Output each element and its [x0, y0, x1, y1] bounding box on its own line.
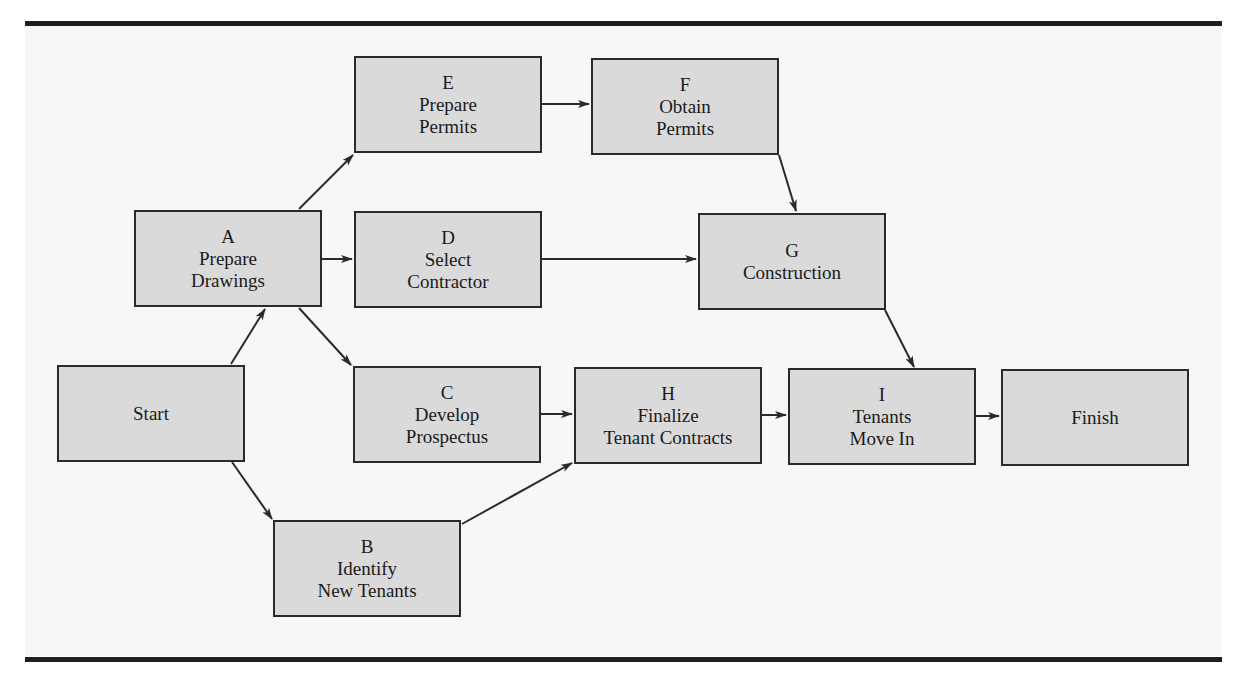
node-i-tenants-move-in: I Tenants Move In: [788, 368, 976, 465]
node-letter: I: [879, 384, 885, 406]
node-label-line2: Permits: [419, 116, 477, 138]
node-letter: A: [221, 226, 235, 248]
bottom-rule: [25, 657, 1222, 662]
node-label: Start: [133, 403, 169, 425]
node-label-line2: New Tenants: [317, 580, 416, 602]
node-letter: E: [442, 72, 454, 94]
node-label-line2: Tenant Contracts: [604, 427, 733, 449]
node-g-construction: G Construction: [698, 213, 886, 310]
node-label-line1: Develop: [415, 404, 479, 426]
node-finish: Finish: [1001, 369, 1189, 466]
node-label-line1: Identify: [337, 558, 397, 580]
node-label-line1: Finalize: [637, 405, 698, 427]
arrow-g-to-i: [885, 310, 914, 367]
node-e-prepare-permits: E Prepare Permits: [354, 56, 542, 153]
node-label-line1: Construction: [743, 262, 841, 284]
node-label-line2: Drawings: [191, 270, 265, 292]
arrow-a-to-c: [299, 308, 351, 365]
node-b-identify-new-tenants: B Identify New Tenants: [273, 520, 461, 617]
node-letter: D: [441, 227, 455, 249]
arrow-start-to-b: [232, 462, 272, 519]
node-a-prepare-drawings: A Prepare Drawings: [134, 210, 322, 307]
node-label-line1: Tenants: [853, 406, 912, 428]
node-label-line1: Prepare: [419, 94, 477, 116]
node-start: Start: [57, 365, 245, 462]
node-d-select-contractor: D Select Contractor: [354, 211, 542, 308]
node-f-obtain-permits: F Obtain Permits: [591, 58, 779, 155]
node-label-line2: Move In: [850, 428, 915, 450]
node-h-finalize-tenant-contracts: H Finalize Tenant Contracts: [574, 367, 762, 464]
arrow-a-to-e: [299, 155, 353, 209]
node-label-line2: Prospectus: [406, 426, 488, 448]
node-label-line2: Permits: [656, 118, 714, 140]
node-letter: G: [785, 240, 799, 262]
node-letter: H: [661, 383, 675, 405]
node-letter: F: [680, 74, 691, 96]
node-label-line1: Obtain: [659, 96, 711, 118]
arrow-f-to-g: [779, 155, 796, 211]
node-label-line1: Select: [425, 249, 471, 271]
node-label-line1: Prepare: [199, 248, 257, 270]
node-c-develop-prospectus: C Develop Prospectus: [353, 366, 541, 463]
arrow-b-to-h: [462, 463, 572, 524]
node-letter: B: [361, 536, 374, 558]
node-label-line2: Contractor: [407, 271, 488, 293]
node-label: Finish: [1071, 407, 1119, 429]
node-letter: C: [441, 382, 454, 404]
arrow-start-to-a: [231, 309, 265, 364]
